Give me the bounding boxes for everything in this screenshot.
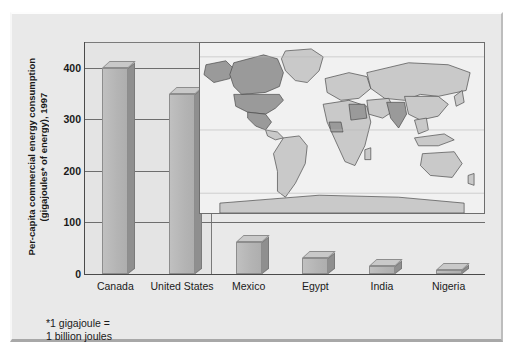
nigeria	[329, 122, 343, 132]
new-zealand	[468, 173, 474, 185]
chart-page: Per-capita commercial energy consumption…	[0, 0, 513, 355]
y-axis-title: Per-capita commercial energy consumption…	[26, 32, 50, 282]
bar-india[interactable]: India	[369, 266, 395, 274]
egypt	[349, 104, 367, 120]
y-tick-label-0: 0	[75, 268, 81, 280]
bar-mexico[interactable]: Mexico	[236, 242, 262, 274]
bar-front-face	[302, 258, 328, 274]
madagascar	[365, 148, 371, 160]
bar-front-face	[369, 266, 395, 274]
bar-canada[interactable]: Canada	[102, 68, 128, 274]
bar-front-face	[169, 94, 195, 274]
y-tick-label-200: 200	[63, 165, 81, 177]
bar-front-face	[436, 270, 462, 274]
bar-side-face	[328, 252, 335, 274]
y-tick-label-100: 100	[63, 216, 81, 228]
footnote: *1 gigajoule = 1 billion joules	[46, 317, 112, 343]
chart-card: Per-capita commercial energy consumption…	[10, 12, 503, 342]
bar-front-face	[102, 68, 128, 274]
y-tick-label-400: 400	[63, 62, 81, 74]
bar-nigeria[interactable]: Nigeria	[436, 270, 462, 274]
gridline-100	[85, 222, 485, 223]
world-map-svg	[200, 43, 484, 213]
y-tick-label-300: 300	[63, 113, 81, 125]
bar-united-states[interactable]: United States	[169, 94, 195, 274]
x-tick-label-nigeria: Nigeria	[410, 280, 488, 293]
bar-egypt[interactable]: Egypt	[302, 258, 328, 274]
bar-side-face	[262, 236, 269, 274]
bar-side-face	[128, 62, 135, 274]
bar-front-face	[236, 242, 262, 274]
world-map-inset	[199, 42, 485, 214]
y-axis-title-text: Per-capita commercial energy consumption…	[26, 58, 50, 255]
